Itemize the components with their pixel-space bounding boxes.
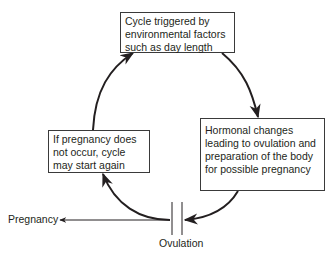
node-restart-text: If pregnancy does not occur, cycle may s… <box>53 133 136 171</box>
arrow-hormonal-to-ovulation <box>185 191 238 220</box>
node-hormonal-text: Hormonal changes leading to ovulation an… <box>205 124 316 175</box>
arrow-ovulation-to-restart <box>103 174 170 220</box>
arrow-trigger-to-hormonal <box>222 53 258 117</box>
node-trigger: Cycle triggered by environmental factors… <box>120 12 235 53</box>
pregnancy-label: Pregnancy <box>8 213 58 225</box>
node-hormonal: Hormonal changes leading to ovulation an… <box>200 118 325 191</box>
node-restart: If pregnancy does not occur, cycle may s… <box>48 130 150 173</box>
arrow-restart-to-trigger <box>93 53 133 130</box>
node-trigger-text: Cycle triggered by environmental factors… <box>125 15 225 53</box>
ovulation-label: Ovulation <box>159 237 203 249</box>
